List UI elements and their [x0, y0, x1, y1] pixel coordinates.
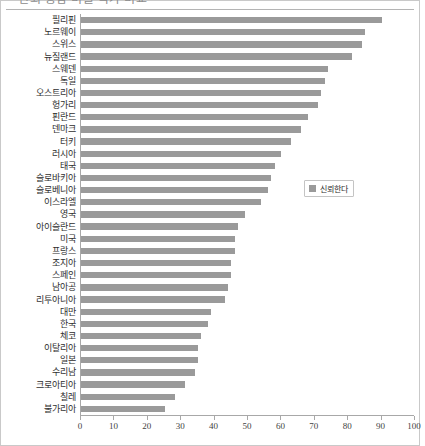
- x-tick-mark: [180, 416, 181, 420]
- category-label: 오스트리아: [36, 88, 76, 98]
- bar-row: 오스트리아: [80, 87, 414, 99]
- category-label: 스위스: [52, 39, 76, 49]
- bar: [81, 151, 281, 157]
- x-tick-mark: [280, 416, 281, 420]
- x-tick-mark: [147, 416, 148, 420]
- x-tick-mark: [314, 416, 315, 420]
- x-tick-label: 40: [199, 421, 229, 431]
- bar-row: 칠레: [80, 391, 414, 403]
- category-label: 조지아: [52, 258, 76, 268]
- header-divider: [6, 9, 414, 10]
- category-label: 미국: [60, 234, 76, 244]
- legend-swatch-icon: [309, 185, 316, 192]
- bar: [81, 126, 301, 132]
- bar-row: 헝가리: [80, 99, 414, 111]
- x-tick-mark: [247, 416, 248, 420]
- bar: [81, 321, 208, 327]
- bar: [81, 138, 291, 144]
- x-tick-label: 80: [332, 421, 362, 431]
- bar-row: 영국: [80, 208, 414, 220]
- bar: [81, 187, 268, 193]
- bar-row: 일본: [80, 354, 414, 366]
- bar: [81, 175, 271, 181]
- category-label: 영국: [60, 209, 76, 219]
- bar: [81, 248, 235, 254]
- bar: [81, 17, 382, 23]
- bar-row: 스페인: [80, 269, 414, 281]
- category-label: 체코: [60, 331, 76, 341]
- category-label: 스페인: [52, 270, 76, 280]
- category-label: 일본: [60, 355, 76, 365]
- bar-row: 이탈리아: [80, 342, 414, 354]
- bar: [81, 296, 225, 302]
- category-label: 프랑스: [52, 246, 76, 256]
- bar-row: 리투아니아: [80, 293, 414, 305]
- category-label: 태국: [60, 161, 76, 171]
- bar-row: 이스라엘: [80, 196, 414, 208]
- bar-row: 슬로바키아: [80, 172, 414, 184]
- category-label: 크로아티아: [36, 380, 76, 390]
- bar-row: 남아공: [80, 281, 414, 293]
- category-label: 핀란드: [52, 112, 76, 122]
- x-tick-label: 100: [399, 421, 425, 431]
- bar: [81, 236, 235, 242]
- bar: [81, 90, 321, 96]
- x-tick-mark: [214, 416, 215, 420]
- chart-legend: 신뢰한다: [304, 180, 354, 197]
- bar: [81, 163, 275, 169]
- bar-row: 태국: [80, 160, 414, 172]
- bar-row: 아이슬란드: [80, 221, 414, 233]
- x-tick-label: 20: [132, 421, 162, 431]
- x-tick-mark: [113, 416, 114, 420]
- category-label: 필리핀: [52, 15, 76, 25]
- bar-row: 프랑스: [80, 245, 414, 257]
- bar-row: 스위스: [80, 38, 414, 50]
- x-tick-label: 60: [265, 421, 295, 431]
- x-tick-mark: [381, 416, 382, 420]
- category-label: 남아공: [52, 282, 76, 292]
- legend-label: 신뢰한다: [320, 183, 348, 194]
- bar: [81, 114, 308, 120]
- bar: [81, 211, 245, 217]
- category-label: 이스라엘: [44, 197, 76, 207]
- x-tick-label: 90: [366, 421, 396, 431]
- plot-area: 필리핀노르웨이스위스뉴질랜드스웨덴독일오스트리아헝가리핀란드덴마크터키러시아태국…: [80, 14, 414, 415]
- category-label: 노르웨이: [44, 27, 76, 37]
- category-label: 뉴질랜드: [44, 52, 76, 62]
- x-tick-label: 10: [98, 421, 128, 431]
- x-tick-label: 30: [165, 421, 195, 431]
- bar-row: 불가리아: [80, 403, 414, 415]
- bar-row: 덴마크: [80, 123, 414, 135]
- bar-row: 체코: [80, 330, 414, 342]
- bar-row: 한국: [80, 318, 414, 330]
- x-tick-mark: [80, 416, 81, 420]
- bar: [81, 102, 318, 108]
- bar-row: 미국: [80, 233, 414, 245]
- category-label: 수리남: [52, 367, 76, 377]
- bar-row: 수리남: [80, 366, 414, 378]
- bar-row: 러시아: [80, 148, 414, 160]
- bar-row: 스웨덴: [80, 63, 414, 75]
- category-label: 슬로바키아: [36, 173, 76, 183]
- category-label: 독일: [60, 76, 76, 86]
- category-label: 슬로베니아: [36, 185, 76, 195]
- bar: [81, 41, 362, 47]
- category-label: 덴마크: [52, 124, 76, 134]
- bar: [81, 357, 198, 363]
- category-label: 터키: [60, 137, 76, 147]
- bar: [81, 333, 201, 339]
- bar: [81, 78, 325, 84]
- bar: [81, 381, 185, 387]
- bar: [81, 272, 231, 278]
- category-label: 이탈리아: [44, 343, 76, 353]
- category-label: 불가리아: [44, 404, 76, 414]
- category-label: 한국: [60, 319, 76, 329]
- bar-row: 조지아: [80, 257, 414, 269]
- bar: [81, 309, 211, 315]
- category-label: 대만: [60, 307, 76, 317]
- clipped-title-text: 신뢰 응답 비율 국가 비교: [18, 0, 147, 7]
- x-tick-label: 0: [65, 421, 95, 431]
- x-tick-label: 70: [299, 421, 329, 431]
- x-tick-mark: [414, 416, 415, 420]
